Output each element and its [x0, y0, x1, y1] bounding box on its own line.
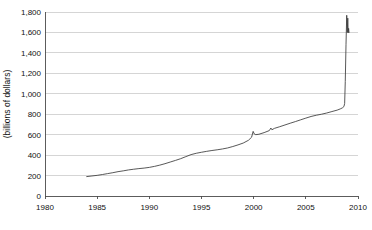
y-tick-label: 200	[28, 172, 42, 181]
x-tick-label: 2005	[297, 203, 315, 212]
gridlines	[45, 12, 358, 176]
chart-figure: 02004006008001,0001,2001,4001,6001,800 1…	[0, 0, 372, 230]
y-tick-label: 1,400	[21, 49, 42, 58]
line-chart-plot: 02004006008001,0001,2001,4001,6001,800 1…	[0, 0, 372, 230]
x-tick-label: 1990	[140, 203, 158, 212]
x-tick-label: 1980	[36, 203, 54, 212]
x-tick-label: 2010	[349, 203, 367, 212]
data-series-line	[87, 15, 349, 176]
y-tick-label: 1,200	[21, 69, 42, 78]
y-tick-label: 1,800	[21, 8, 42, 17]
y-tick-label: 400	[28, 151, 42, 160]
y-tick-label: 1,000	[21, 90, 42, 99]
x-axis-tick-labels: 1980198519901995200020052010	[36, 203, 367, 212]
x-tick-label: 1985	[88, 203, 106, 212]
y-tick-label: 0	[37, 192, 42, 201]
x-tick-label: 2000	[245, 203, 263, 212]
x-tick-label: 1995	[193, 203, 211, 212]
y-tick-label: 1,600	[21, 28, 42, 37]
y-tick-label: 800	[28, 110, 42, 119]
y-axis-title: (billions of dollars)	[2, 70, 12, 139]
y-axis-tick-labels: 02004006008001,0001,2001,4001,6001,800	[21, 8, 42, 201]
y-tick-label: 600	[28, 131, 42, 140]
